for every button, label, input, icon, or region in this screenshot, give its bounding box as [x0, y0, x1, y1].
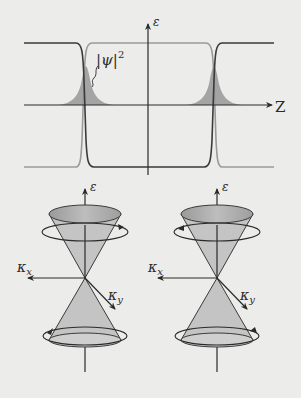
left-dirac-cone: ε κx κy: [16, 180, 128, 372]
right-ky-label: κy: [239, 287, 255, 305]
density-left: [58, 66, 114, 105]
density-pointer: [92, 66, 98, 87]
figure: ε Z |ψ|2 ε κx κy: [0, 0, 301, 398]
left-kx-label: κx: [16, 259, 32, 277]
right-upper-top: [181, 205, 253, 223]
left-upper-rotation-arrow: [118, 224, 124, 230]
left-energy-label: ε: [90, 180, 96, 194]
left-upper-top: [49, 205, 121, 223]
band-diagram: ε Z |ψ|2: [24, 15, 285, 175]
right-energy-label: ε: [222, 180, 228, 194]
left-ky-label: κy: [107, 287, 123, 305]
right-kx-label: κx: [147, 259, 163, 277]
right-dirac-cone: ε κx κy: [147, 180, 260, 372]
density-label: |ψ|2: [96, 49, 124, 69]
energy-axis-label: ε: [153, 15, 159, 29]
right-lower-rotation-arrow: [250, 327, 257, 333]
z-axis-label: Z: [275, 98, 285, 116]
